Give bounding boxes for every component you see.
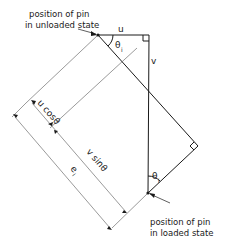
unloaded-label-line2: in unloaded state: [25, 20, 99, 30]
u-label: u: [118, 24, 124, 34]
v-label: v: [151, 56, 157, 66]
loaded-label-line2: in loaded state: [150, 228, 213, 238]
geometry: [98, 35, 198, 193]
dimension-line-inner: [32, 103, 126, 212]
loaded-pin-dot: [146, 191, 149, 194]
dimension-line-outer: [15, 117, 110, 228]
extension-line-loaded: [112, 193, 148, 228]
v-displacement-line: [148, 35, 149, 193]
right-angle-marker-bottom: [190, 142, 194, 150]
e-label-group: e i: [67, 164, 81, 178]
v-sin-label-group: v sinθ: [84, 147, 109, 174]
right-angle-marker-top: [143, 35, 149, 41]
projection-line: [148, 146, 198, 193]
leader-arrow-icon: [91, 31, 97, 36]
arrowheads: [13, 100, 127, 230]
theta-arc-top: [108, 35, 113, 46]
arrow-icon: [107, 226, 112, 230]
unloaded-label-line1: position of pin: [29, 9, 89, 19]
extension-line-ucos: [50, 48, 137, 128]
arrow-icon: [31, 100, 36, 105]
v-sin-label: v sinθ: [84, 147, 109, 174]
theta-top-subscript: i: [121, 46, 123, 53]
pin-displacement-diagram: position of pin in unloaded state positi…: [0, 0, 232, 245]
leader-arrow-icon: [149, 193, 155, 198]
loaded-label-line1: position of pin: [150, 217, 210, 227]
extension-line-unloaded: [26, 35, 98, 103]
dimension-lines: [12, 35, 148, 228]
